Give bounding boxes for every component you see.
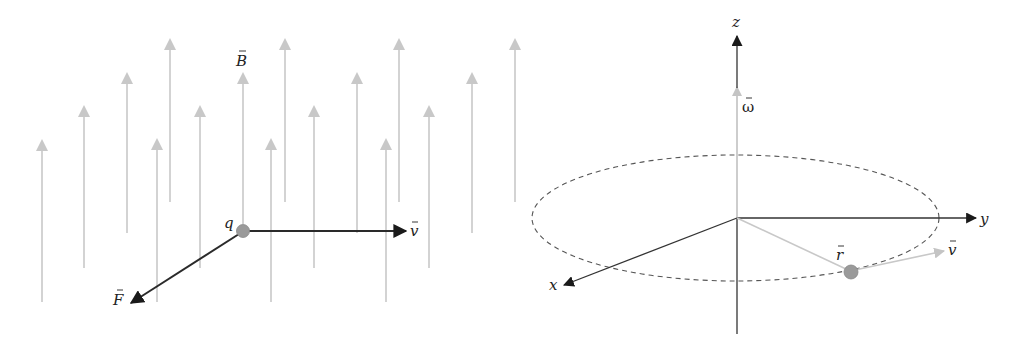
field-line-arrowhead [279,38,291,50]
field-line-arrow [351,72,363,233]
force-label: F [112,291,124,309]
field-line-arrowhead [393,38,405,50]
field-line-arrowhead [265,138,277,150]
field-line-arrow [466,72,478,233]
field-line-arrowhead [237,72,249,84]
y-axis-label: y [979,210,989,228]
field-label: B [235,52,247,70]
field-line-arrow [279,38,291,202]
x-axis-label: x [549,276,558,294]
velocity-label-group: v [410,222,419,240]
field-line-arrowhead [380,138,392,150]
z-axis-label: z [731,13,740,31]
magnetic-field-panel: B q v F [36,38,521,309]
angular-velocity-label-group: ω [742,98,754,116]
angular-velocity-label: ω [742,98,754,116]
field-line-arrow [393,38,405,202]
field-line-arrow [78,105,90,268]
diagram-canvas: B q v F z y x [0,0,1023,340]
tangential-velocity-vector [855,251,944,270]
tangential-velocity-label-group: v [948,241,957,259]
field-line-arrowhead [36,139,48,151]
force-label-group: F [112,290,124,309]
field-line-arrowhead [194,105,206,117]
field-line-arrowhead [121,72,133,84]
field-line-arrow [164,38,176,202]
field-line-arrow [509,38,521,202]
circular-motion-panel: z y x ω r v [532,13,989,334]
field-line-arrowhead [423,105,435,117]
field-line-arrow [121,72,133,233]
orbiting-particle [844,265,858,279]
field-line-arrow [265,138,277,302]
field-line-arrow [237,72,249,224]
field-line-arrowhead [308,105,320,117]
field-line-arrow [36,139,48,302]
force-vector [131,234,239,303]
field-line-arrow [151,138,163,302]
field-line-arrowhead [466,72,478,84]
field-line-arrowhead [151,138,163,150]
field-line-arrow [380,138,392,302]
field-line-arrowhead [78,105,90,117]
charge-label: q [224,214,234,232]
charge-particle [237,225,250,238]
field-line-arrow [194,105,206,268]
radius-label-group: r [836,246,844,264]
field-line-arrowhead [509,38,521,50]
magnetic-field-lines [36,38,521,302]
field-line-arrow [308,105,320,268]
radius-label: r [836,246,844,264]
field-line-arrow [423,105,435,268]
field-label-group: B [235,51,247,70]
field-line-arrowhead [351,72,363,84]
velocity-label: v [410,222,419,240]
tangential-velocity-label: v [948,241,957,259]
radius-vector [737,218,846,269]
field-line-arrowhead [164,38,176,50]
